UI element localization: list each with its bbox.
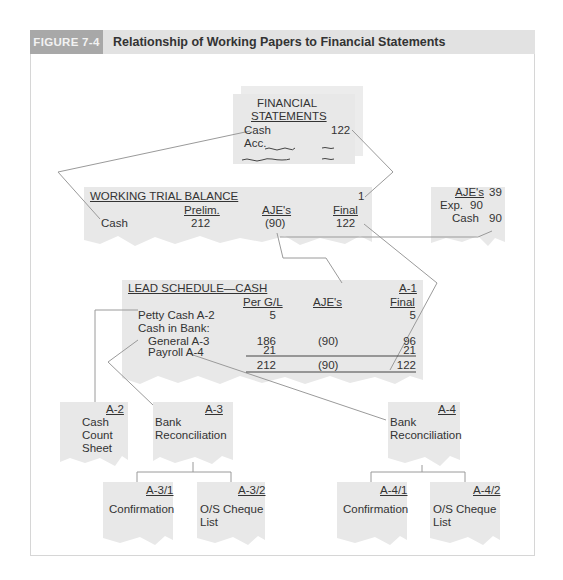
- aje-line2-label: Cash: [452, 212, 479, 224]
- lead-col-aje: AJE's: [313, 296, 342, 308]
- lead-total-pergl: 212: [250, 359, 276, 371]
- a42-line1: O/S Cheque: [433, 503, 496, 515]
- fs-cash-value: 122: [331, 124, 350, 136]
- aje-title: AJE's: [455, 186, 484, 198]
- a2-line2: Count: [82, 429, 113, 441]
- wtb-final-value: 122: [336, 217, 355, 229]
- a31-ref: A-3/1: [146, 484, 174, 496]
- wtb-ref: 1: [358, 190, 364, 202]
- a31-line1: Confirmation: [109, 503, 174, 515]
- lead-total-final: 122: [390, 359, 416, 371]
- a32-line1: O/S Cheque: [200, 503, 263, 515]
- a4-ref: A-4: [438, 403, 456, 415]
- a42-ref: A-4/2: [473, 484, 501, 496]
- fs-cash-label: Cash: [244, 124, 271, 136]
- a3-line2: Reconciliation: [155, 429, 227, 441]
- aje-line1-label: Exp.: [440, 199, 463, 211]
- wtb-aje-value: (90): [265, 217, 285, 229]
- lead-total-aje: (90): [318, 359, 338, 371]
- aje-line1-value: 90: [470, 199, 483, 211]
- lead-row-petty-label: Petty Cash A-2: [138, 309, 215, 321]
- a41-ref: A-4/1: [380, 484, 408, 496]
- wtb-col-prelim: Prelim.: [184, 204, 220, 216]
- lead-row-petty-pergl: 5: [250, 309, 276, 321]
- lead-row-general-aje: (90): [318, 335, 338, 347]
- aje-ref: 39: [489, 186, 502, 198]
- a32-ref: A-3/2: [238, 484, 266, 496]
- a3-ref: A-3: [205, 403, 223, 415]
- lead-title: LEAD SCHEDULE—CASH: [128, 282, 267, 294]
- a41-line1: Confirmation: [343, 503, 408, 515]
- fs-title-line1: FINANCIAL: [257, 97, 317, 109]
- wtb-col-final: Final: [333, 204, 358, 216]
- lead-row-payroll-final: 21: [390, 344, 416, 356]
- lead-row-bank-label: Cash in Bank:: [138, 322, 210, 334]
- lead-row-payroll-pergl: 21: [250, 344, 276, 356]
- fs-acc-label: Acc.: [244, 137, 266, 149]
- a3-line1: Bank: [155, 416, 181, 428]
- a42-line2: List: [433, 516, 451, 528]
- a2-line3: Sheet: [82, 442, 112, 454]
- lead-row-payroll-label: Payroll A-4: [148, 346, 204, 358]
- fs-title-line2: STATEMENTS: [251, 110, 327, 122]
- a32-line2: List: [200, 516, 218, 528]
- aje-line2-value: 90: [489, 212, 502, 224]
- wtb-row-label: Cash: [101, 217, 128, 229]
- a2-line1: Cash: [82, 416, 109, 428]
- lead-col-final: Final: [390, 296, 415, 308]
- wtb-title: WORKING TRIAL BALANCE: [90, 190, 238, 202]
- lead-row-petty-final: 5: [390, 309, 416, 321]
- wtb-prelim-value: 212: [191, 217, 210, 229]
- a4-line2: Reconciliation: [390, 429, 462, 441]
- a4-line1: Bank: [390, 416, 416, 428]
- wtb-col-aje: AJE's: [262, 204, 291, 216]
- lead-ref: A-1: [399, 282, 417, 294]
- a2-ref: A-2: [106, 403, 124, 415]
- lead-col-pergl: Per G/L: [243, 296, 283, 308]
